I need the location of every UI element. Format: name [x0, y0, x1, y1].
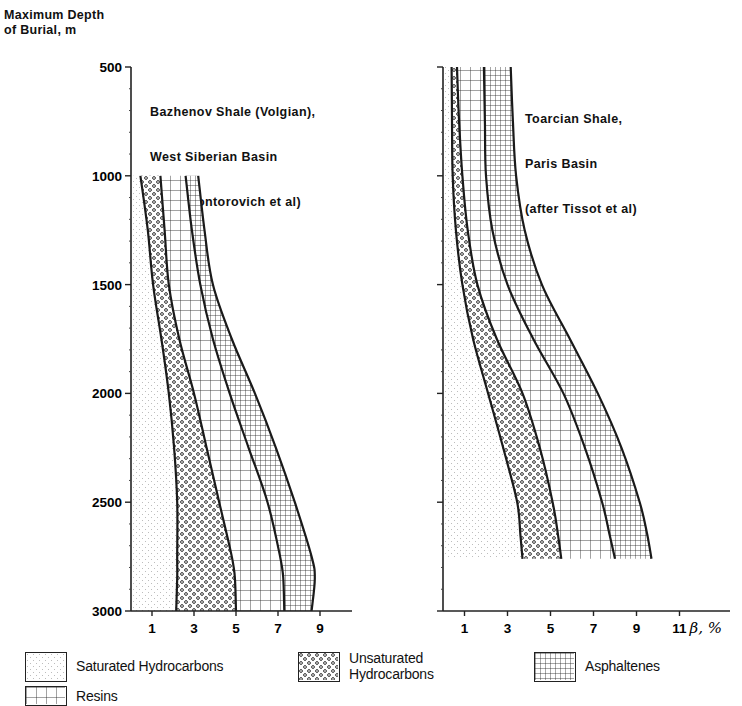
unsaturated-swatch-icon	[298, 652, 340, 682]
x-axis-unit-label: β, %	[689, 619, 722, 637]
x-tick-label: 9	[316, 621, 324, 636]
legend-item-resins: Resins	[25, 686, 118, 706]
saturated-swatch-icon	[25, 652, 67, 682]
left-chart-panel: 5001000150020002500300013579	[92, 60, 352, 636]
legend-item-asphaltenes: Asphaltenes	[534, 652, 660, 682]
x-tick-label: 3	[504, 621, 512, 636]
legend-label-unsaturated-line-1: Unsaturated	[349, 650, 434, 666]
legend-item-saturated: Saturated Hydrocarbons	[25, 652, 223, 682]
y-tick-label: 1500	[92, 278, 122, 293]
legend-label-saturated: Saturated Hydrocarbons	[76, 658, 223, 674]
x-tick-label: 7	[590, 621, 598, 636]
x-tick-label: 11	[672, 621, 687, 636]
y-tick-label: 3000	[92, 604, 122, 619]
right-chart-panel: 1357911β, %	[437, 67, 730, 637]
x-tick-label: 7	[274, 621, 282, 636]
legend-label-asphaltenes: Asphaltenes	[585, 658, 660, 674]
x-tick-label: 5	[232, 621, 240, 636]
y-tick-label: 2000	[92, 386, 122, 401]
y-tick-label: 2500	[92, 495, 122, 510]
x-tick-label: 9	[633, 621, 641, 636]
legend-label-resins: Resins	[76, 688, 118, 704]
legend-item-unsaturated: Unsaturated Hydrocarbons	[298, 652, 434, 682]
x-tick-label: 1	[461, 621, 469, 636]
x-tick-label: 3	[190, 621, 198, 636]
y-tick-label: 500	[99, 60, 122, 75]
resins-swatch-icon	[25, 686, 67, 706]
x-tick-label: 1	[148, 621, 156, 636]
legend-label-unsaturated: Unsaturated Hydrocarbons	[349, 650, 434, 682]
y-tick-label: 1000	[92, 169, 122, 184]
figure-canvas: 5001000150020002500300013579 1357911β, %	[0, 0, 742, 706]
legend-label-unsaturated-line-2: Hydrocarbons	[349, 666, 434, 682]
x-tick-label: 5	[547, 621, 555, 636]
asphaltenes-swatch-icon	[534, 652, 576, 682]
